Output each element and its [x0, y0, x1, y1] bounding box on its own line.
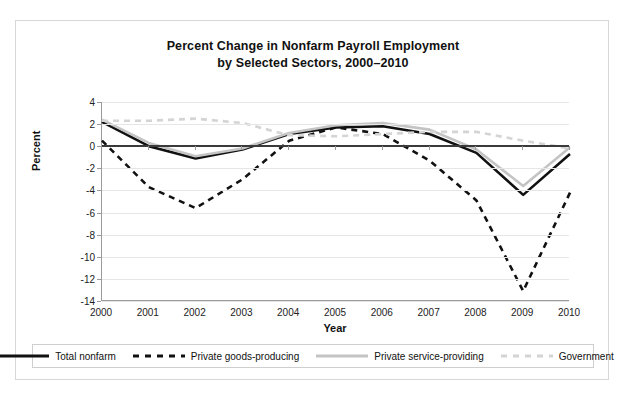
x-axis-tick-label: 2001: [125, 307, 171, 318]
legend-swatch-icon: [315, 351, 369, 361]
x-axis-tick-label: 2007: [406, 307, 452, 318]
x-axis-tick-mark: [288, 146, 289, 150]
x-axis-tick-label: 2004: [265, 307, 311, 318]
y-axis-tick-label: -8: [65, 229, 95, 240]
x-axis-tick-label: 2009: [499, 307, 545, 318]
gridline: [102, 235, 569, 236]
legend-label: Private service-providing: [369, 351, 500, 362]
x-axis-tick-mark: [101, 146, 102, 150]
series-line-total-nonfarm: [102, 122, 570, 195]
y-axis-tick-mark: [97, 190, 101, 191]
x-axis-tick-mark: [335, 146, 336, 150]
x-axis-tick-label: 2003: [218, 307, 264, 318]
y-axis-label: Percent: [30, 131, 42, 171]
gridline: [102, 257, 569, 258]
plot-area: [101, 102, 569, 301]
legend-label: Private goods-producing: [186, 351, 315, 362]
x-axis-tick-label: 2000: [78, 307, 124, 318]
legend-swatch-icon: [0, 351, 50, 361]
x-axis-tick-label: 2005: [312, 307, 358, 318]
x-axis-tick-mark: [475, 146, 476, 150]
chart-title-line-2: by Selected Sectors, 2000–2010: [16, 55, 610, 72]
clipped-top-text: [6, 0, 618, 7]
y-axis-tick-mark: [97, 279, 101, 280]
gridline: [102, 168, 569, 169]
x-axis-tick-label: 2010: [546, 307, 592, 318]
chart-title-line-1: Percent Change in Nonfarm Payroll Employ…: [16, 38, 610, 55]
gridline: [102, 213, 569, 214]
y-axis-tick-mark: [97, 213, 101, 214]
y-axis-tick-mark: [97, 124, 101, 125]
y-axis-tick-label: 4: [65, 97, 95, 108]
y-axis-tick-mark: [97, 235, 101, 236]
y-axis-tick-label: -12: [65, 273, 95, 284]
y-axis-tick-label: 2: [65, 119, 95, 130]
x-axis-tick-mark: [148, 146, 149, 150]
x-axis-tick-mark: [569, 146, 570, 150]
legend-item-total-nonfarm[interactable]: Total nonfarm: [0, 351, 132, 362]
y-axis-tick-mark: [97, 301, 101, 302]
gridline: [102, 279, 569, 280]
y-axis-tick-label: -2: [65, 163, 95, 174]
series-lines: [102, 102, 570, 301]
x-axis-tick-label: 2008: [452, 307, 498, 318]
x-axis-tick-mark: [382, 146, 383, 150]
y-axis-tick-label: 0: [65, 141, 95, 152]
y-axis-tick-mark: [97, 168, 101, 169]
y-axis-tick-label: -14: [65, 296, 95, 307]
y-axis-tick-label: -6: [65, 207, 95, 218]
legend-item-government[interactable]: Government: [500, 351, 624, 362]
y-axis-tick-mark: [97, 102, 101, 103]
x-axis-label: Year: [101, 322, 569, 334]
gridline: [102, 124, 569, 125]
x-axis-tick-label: 2002: [172, 307, 218, 318]
y-axis-tick-label: -4: [65, 185, 95, 196]
chart-card: Percent Change in Nonfarm Payroll Employ…: [15, 20, 609, 380]
x-axis-tick-mark: [241, 146, 242, 150]
chart-legend: Total nonfarmPrivate goods-producingPriv…: [32, 344, 594, 368]
gridline: [102, 102, 569, 103]
gridline: [102, 190, 569, 191]
legend-swatch-icon: [500, 351, 554, 361]
gridline: [102, 301, 569, 302]
legend-label: Total nonfarm: [50, 351, 132, 362]
x-axis-tick-mark: [429, 146, 430, 150]
y-axis-tick-label: -10: [65, 251, 95, 262]
chart-title: Percent Change in Nonfarm Payroll Employ…: [16, 38, 610, 72]
x-axis-tick-mark: [195, 146, 196, 150]
legend-item-private-service-providing[interactable]: Private service-providing: [315, 351, 500, 362]
legend-swatch-icon: [132, 351, 186, 361]
series-line-government: [102, 119, 570, 149]
legend-label: Government: [554, 351, 624, 362]
x-axis-tick-label: 2006: [359, 307, 405, 318]
y-axis-tick-mark: [97, 257, 101, 258]
x-axis-tick-mark: [522, 146, 523, 150]
legend-item-private-goods-producing[interactable]: Private goods-producing: [132, 351, 315, 362]
